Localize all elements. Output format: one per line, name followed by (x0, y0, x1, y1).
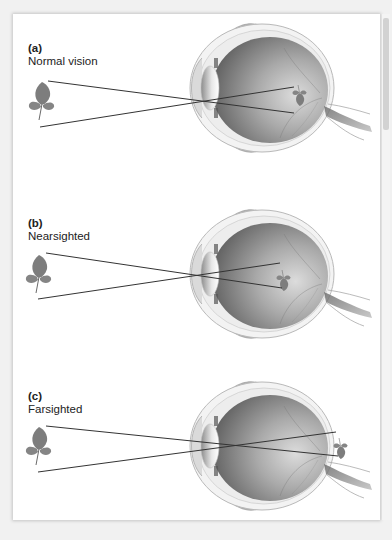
eye-vision-diagram (0, 0, 392, 540)
panel-b-label: (b) Nearsighted (28, 217, 90, 243)
panel-letter: (a) (28, 42, 98, 55)
panel-title: Farsighted (28, 403, 82, 416)
panel-title: Normal vision (28, 55, 98, 68)
panel-letter: (b) (28, 217, 90, 230)
panel-title: Nearsighted (28, 230, 90, 243)
leaf-object-icon (26, 255, 51, 293)
eye-illustration-b (190, 209, 372, 338)
leaf-object-icon (26, 427, 51, 465)
panel-c-label: (c) Farsighted (28, 390, 82, 416)
panel-a-label: (a) Normal vision (28, 42, 98, 68)
leaf-object-icon (29, 82, 54, 120)
eye-illustration-a (190, 23, 372, 152)
panel-letter: (c) (28, 390, 82, 403)
